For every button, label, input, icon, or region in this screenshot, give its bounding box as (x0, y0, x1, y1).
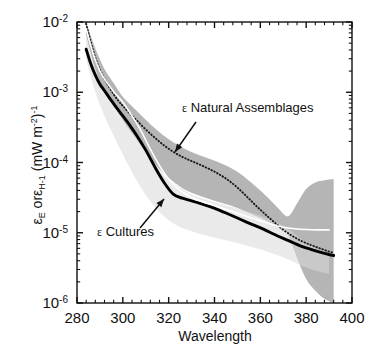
y-axis-or: or (29, 196, 45, 213)
x-tick-label-400: 400 (339, 309, 364, 326)
x-tick-label-300: 300 (110, 309, 135, 326)
uncertainty-bands (86, 22, 334, 303)
spectral-irradiance-chart: 28030032034036038040010-610-510-410-310-… (0, 0, 378, 350)
x-tick-label-340: 340 (202, 309, 227, 326)
natural-assemblages-label: ε Natural Assemblages (182, 100, 314, 115)
svg-text:εE orεH-1 (mW m-2)-1: εE orεH-1 (mW m-2)-1 (29, 105, 47, 224)
x-tick-label-320: 320 (156, 309, 181, 326)
x-tick-label-380: 380 (294, 309, 319, 326)
x-tick-label-360: 360 (248, 309, 273, 326)
y-axis-title: εE orεH-1 (mW m-2)-1 (29, 105, 47, 224)
y-axis-units-exp: -2 (29, 118, 39, 126)
y-axis-sub-h: H-1 (37, 175, 47, 190)
figure-container: 28030032034036038040010-610-510-410-310-… (0, 0, 378, 350)
y-tick-label-10-4: 10-4 (42, 154, 68, 171)
x-tick-label-280: 280 (64, 309, 89, 326)
y-tick-label-10-5: 10-5 (42, 224, 68, 241)
cultures-label: ε Cultures (97, 224, 155, 239)
y-axis-outer-exp: -1 (29, 105, 39, 113)
y-tick-label-10-3: 10-3 (42, 83, 68, 100)
x-axis-title: Wavelength (178, 328, 251, 344)
y-axis-units: (mW m (29, 126, 45, 175)
y-tick-label-10-2: 10-2 (42, 13, 68, 30)
